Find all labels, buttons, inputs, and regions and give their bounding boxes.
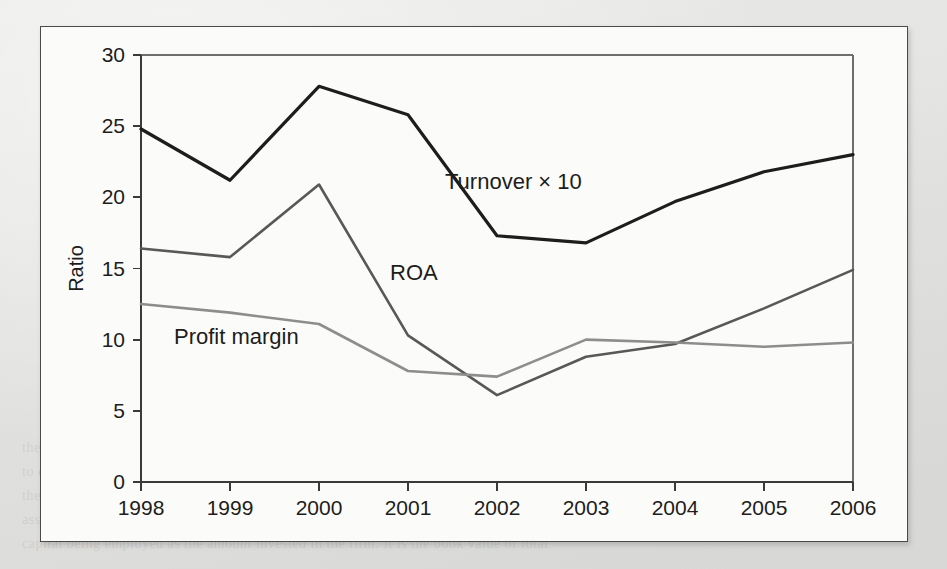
y-tick-label: 20 [102,185,125,208]
x-tick-label: 2006 [830,496,877,519]
x-tick-label: 2000 [296,496,343,519]
x-tick-label: 2005 [741,496,788,519]
x-tick-label: 2004 [652,496,699,519]
figure-panel: 051015202530 199819992000200120022003200… [40,26,908,542]
series-label: Turnover × 10 [445,169,582,194]
y-tick-label: 0 [113,470,125,493]
series-line [141,86,853,243]
x-tick-label: 1999 [207,496,254,519]
y-tick-label: 15 [102,257,125,280]
y-tick-label: 30 [102,43,125,66]
scanned-page: Company Data SetTurnover(ratio)2.482.122… [0,0,947,569]
y-axis: 051015202530 [102,43,141,493]
series-annotations: Turnover × 10ROAProfit margin [174,169,582,349]
plot-frame [141,55,853,482]
series-label: ROA [390,260,438,285]
line-chart: 051015202530 199819992000200120022003200… [41,27,909,543]
y-tick-label: 25 [102,114,125,137]
x-tick-label: 2003 [563,496,610,519]
y-tick-label: 10 [102,328,125,351]
x-axis: 199819992000200120022003200420052006 [118,482,877,519]
y-axis-title: Ratio [65,245,87,292]
series-label: Profit margin [174,324,299,349]
series-line [141,185,853,396]
x-tick-label: 1998 [118,496,165,519]
x-tick-label: 2002 [474,496,521,519]
x-tick-label: 2001 [385,496,432,519]
y-tick-label: 5 [113,399,125,422]
